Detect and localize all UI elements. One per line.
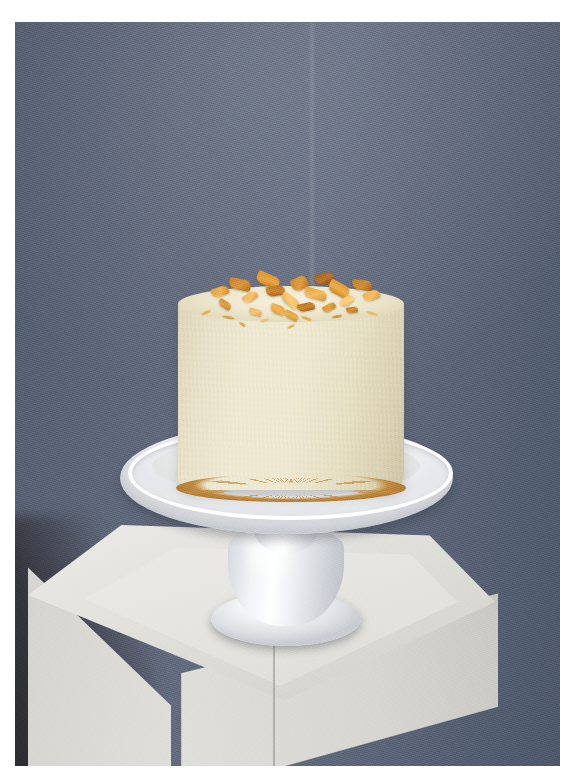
honeycomb-shard: [303, 286, 328, 302]
honeycomb-shard: [249, 307, 263, 316]
honeycomb-shard: [321, 301, 337, 314]
honeycomb-shard: [228, 277, 252, 292]
caramel-drizzle: [239, 321, 246, 327]
photograph-image: [15, 22, 560, 766]
honeycomb-shard: [218, 298, 234, 311]
cake-base-crumb-texture: [178, 478, 404, 500]
honeycomb-shard: [352, 279, 373, 291]
honeycomb-shard: [241, 289, 259, 304]
honeycomb-shard: [345, 306, 358, 314]
caramel-drizzle: [287, 323, 295, 329]
honeycomb-shard: [210, 284, 230, 298]
honeycomb-topping: [208, 271, 380, 331]
honeycomb-shard: [283, 309, 300, 322]
photo-print: Frosted layer cake topped with golden ho…: [0, 0, 575, 783]
honeycomb-shard: [297, 301, 316, 313]
caramel-drizzle: [222, 315, 235, 321]
caramel-drizzle: [301, 315, 312, 322]
caramel-drizzle: [366, 310, 378, 317]
caramel-drizzle: [332, 314, 342, 319]
caramel-drizzle: [259, 318, 268, 323]
